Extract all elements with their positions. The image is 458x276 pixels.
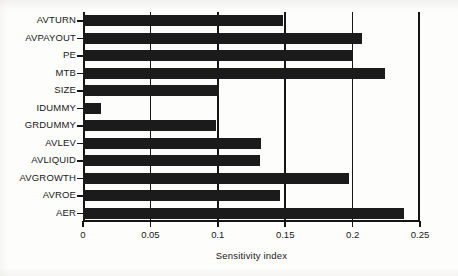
y-axis-category-labels: AVTURNAVPAYOUTPEMTBSIZEIDUMMYGRDUMMYAVLE… [0,12,76,222]
bar-aer [83,208,404,219]
bar-avliquid [83,155,260,166]
x-tick-label-0.05: 0.05 [141,229,160,240]
bar-avturn [83,15,283,26]
bar-avgrowth [83,173,349,184]
x-tick-mark-0.05 [150,221,152,227]
x-tick-mark-0.2 [352,221,354,227]
y-axis-label-aer: AER [0,208,76,218]
y-axis-label-size: SIZE [0,85,76,95]
x-tick-label-0.25: 0.25 [411,229,430,240]
bar-size [83,85,219,96]
x-tick-mark-0.15 [284,221,286,227]
x-tick-label-0.2: 0.2 [346,229,359,240]
y-axis-label-avturn: AVTURN [0,15,76,25]
y-axis-label-avliquid: AVLIQUID [0,155,76,165]
bar-avpayout [83,33,362,44]
y-axis-label-mtb: MTB [0,68,76,78]
x-tick-label-0.1: 0.1 [211,229,224,240]
y-axis-label-avpayout: AVPAYOUT [0,33,76,43]
y-axis-label-avgrowth: AVGROWTH [0,173,76,183]
y-axis-label-pe: PE [0,50,76,60]
bar-pe [83,50,353,61]
plot-area [83,12,420,222]
x-tick-mark-0.25 [419,221,421,227]
bar-mtb [83,68,385,79]
y-axis-label-grdummy: GRDUMMY [0,120,76,130]
x-axis-ticks [83,221,420,229]
y-axis-label-idummy: IDUMMY [0,103,76,113]
y-axis-label-avlev: AVLEV [0,138,76,148]
sensitivity-index-bar-chart: AVTURNAVPAYOUTPEMTBSIZEIDUMMYGRDUMMYAVLE… [0,0,458,276]
bar-avlev [83,138,261,149]
x-tick-label-0.15: 0.15 [276,229,295,240]
bar-grdummy [83,120,216,131]
x-axis-title: Sensitivity index [83,250,420,261]
bar-series [83,12,420,222]
x-axis-tick-labels: 00.050.10.150.20.25 [83,229,420,243]
x-tick-mark-0.1 [217,221,219,227]
bar-idummy [83,103,101,114]
x-tick-label-0: 0 [80,229,85,240]
y-axis-label-avroe: AVROE [0,190,76,200]
x-tick-mark-0 [82,221,84,227]
bar-avroe [83,190,280,201]
